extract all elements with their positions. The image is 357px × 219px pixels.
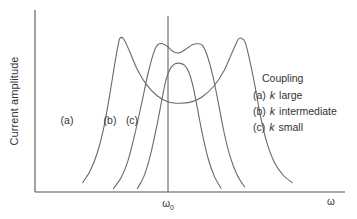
curve-tag-a: (a)	[61, 114, 74, 126]
legend-entry-a: (a)klarge	[253, 89, 303, 101]
legend-entry-a-text: large	[279, 89, 303, 101]
legend-entry-b-symbol: k	[270, 105, 276, 117]
chart-canvas: Current amplitude (a) (b) (c) ω0 ω Coupl…	[0, 0, 357, 219]
x-tick-omega-subscript: 0	[170, 204, 174, 211]
legend-entry-b-text: intermediate	[279, 105, 337, 117]
legend-title: Coupling	[262, 72, 304, 84]
legend-entry-c: (c)ksmall	[253, 121, 303, 133]
x-tick-omega-zero: ω0	[162, 198, 174, 211]
legend-entry-c-symbol: k	[269, 121, 275, 133]
x-axis-label: ω	[327, 196, 335, 207]
legend-entry-c-text: small	[279, 121, 304, 133]
y-axis-label: Current amplitude	[8, 56, 20, 145]
legend-entry-b: (b)kintermediate	[253, 105, 337, 117]
x-tick-omega-glyph: ω	[162, 198, 170, 209]
legend-entry-a-marker: (a)	[253, 89, 266, 101]
legend-entry-c-marker: (c)	[253, 121, 265, 133]
resonance-curves-figure: Current amplitude (a) (b) (c) ω0 ω Coupl…	[0, 0, 357, 219]
curve-tag-b: (b)	[104, 114, 117, 126]
legend-entry-a-symbol: k	[270, 89, 276, 101]
curve-tag-c: (c)	[126, 114, 138, 126]
curve-c-k-small	[137, 63, 221, 189]
legend-entry-b-marker: (b)	[253, 105, 266, 117]
